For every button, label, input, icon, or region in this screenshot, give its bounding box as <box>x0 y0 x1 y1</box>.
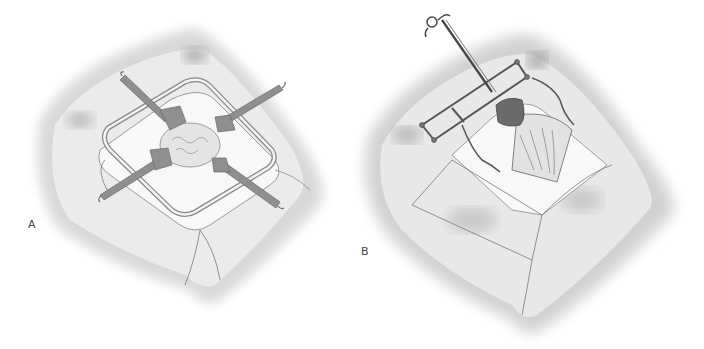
panel-b-illustration: B <box>352 0 704 349</box>
surgical-illustration-b <box>352 0 704 349</box>
panel-label-a: A <box>28 218 36 231</box>
panel-label-b: B <box>361 245 369 258</box>
panel-a-illustration: A <box>0 0 352 349</box>
surgical-illustration-a <box>0 0 352 349</box>
